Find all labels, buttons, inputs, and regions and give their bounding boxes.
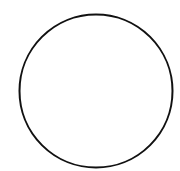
diagram-svg [0,0,180,171]
circle-outline [20,15,173,168]
diagram-canvas [0,0,180,171]
